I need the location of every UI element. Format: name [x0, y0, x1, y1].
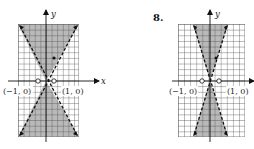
graph-2-open-point-left [200, 79, 204, 83]
graph-1-right-point-label: (1, 0) [62, 87, 84, 96]
problem-number: 8. [153, 12, 163, 23]
graph-2-right-point-label: (1, 0) [227, 87, 249, 96]
graph-2: 8. y (−1, 0) (1, 0) [153, 9, 254, 142]
graph-1: y x (−1, 0) (1, 0) [2, 9, 106, 142]
figure: y x (−1, 0) (1, 0) 8. y [0, 0, 254, 149]
graph-2-left-point-label: (−1, 0) [169, 87, 197, 96]
graph-2-test-point [215, 57, 218, 60]
graph-2-y-label: y [214, 9, 220, 19]
graph-1-y-label: y [50, 9, 56, 19]
graph-1-plot-area [18, 24, 79, 137]
graph-1-test-point [52, 56, 55, 59]
graph-2-plot-area [178, 24, 245, 137]
graph-1-x-label: x [101, 76, 106, 86]
graph-1-left-point-label: (−1, 0) [3, 87, 31, 96]
graph-2-open-point-right [217, 79, 221, 83]
graph-1-open-point-left [36, 79, 40, 83]
graph-1-open-point-right [52, 79, 56, 83]
